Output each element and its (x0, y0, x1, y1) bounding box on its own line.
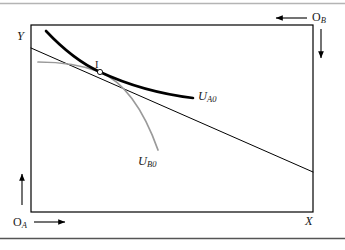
figure-canvas (0, 0, 345, 250)
edgeworth-box-border (31, 25, 313, 212)
indifference-curve-a-label: UA0 (198, 90, 216, 103)
curve-a-letter: U (198, 89, 207, 103)
indifference-curve-b (38, 62, 158, 150)
x-axis-label: X (305, 215, 313, 228)
origin-a-letter: O (13, 215, 22, 229)
origin-b-subscript: B (321, 15, 326, 25)
edgeworth-box-figure: Y X OA OB UA0 UB0 I (0, 0, 345, 250)
origin-b-letter: O (312, 10, 321, 24)
origin-a-label: OA (13, 216, 27, 229)
origin-a-subscript: A (22, 220, 27, 230)
curve-a-subscript: A0 (207, 94, 216, 104)
y-axis-label: Y (17, 30, 24, 43)
price-line (31, 48, 313, 172)
indifference-curve-b-label: UB0 (138, 155, 156, 168)
curve-b-letter: U (138, 154, 147, 168)
tangency-point-label: I (95, 60, 99, 71)
curve-b-subscript: B0 (147, 159, 156, 169)
origin-b-label: OB (312, 11, 326, 24)
